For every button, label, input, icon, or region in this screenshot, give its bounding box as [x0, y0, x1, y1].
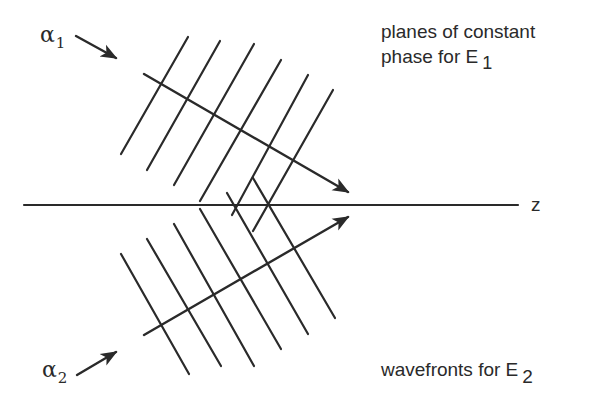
e1-phase-plane: [232, 75, 308, 215]
e2-ray-arrow: [144, 217, 348, 335]
alpha1-label: α1: [40, 22, 65, 47]
e2-wavefronts: [121, 178, 335, 374]
alpha1-arrow: [76, 36, 116, 58]
e1-planes-of-constant-phase: [121, 37, 333, 231]
z-axis-label: z: [531, 194, 541, 216]
e1-caption-line1: planes of constant: [381, 21, 535, 43]
e1-caption-text: phase for E: [381, 46, 478, 67]
e1-phase-plane: [147, 41, 220, 170]
alpha2-symbol: α: [42, 357, 57, 382]
e2-wavefront: [147, 239, 221, 366]
alpha2-subscript: 2: [58, 369, 68, 387]
e1-caption-subscript: 1: [482, 53, 492, 73]
e1-ray-arrow: [144, 74, 348, 192]
e2-caption-text: wavefronts for E: [381, 359, 518, 380]
alpha1-symbol: α: [40, 22, 55, 47]
e2-caption: wavefronts for E2: [381, 359, 533, 381]
alpha2-arrow: [77, 352, 116, 375]
alpha1-subscript: 1: [56, 34, 66, 52]
alpha2-label: α2: [42, 357, 67, 382]
e1-caption-line2: phase for E1: [381, 46, 492, 68]
e1-phase-plane: [121, 37, 188, 154]
diagram-canvas: [0, 0, 596, 397]
e2-caption-subscript: 2: [522, 366, 533, 387]
